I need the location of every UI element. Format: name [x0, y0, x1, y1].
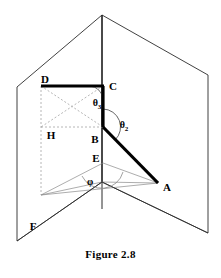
theta2-subscript: 2 — [125, 125, 129, 133]
geometry-diagram — [0, 0, 221, 278]
vertex-label-E: E — [92, 153, 99, 164]
vertex-label-C: C — [109, 81, 117, 92]
angle-label-phi: φ — [87, 177, 93, 187]
angle-label-theta3: θ3 — [93, 98, 102, 111]
vertex-label-D: D — [41, 74, 49, 85]
right-plane — [102, 15, 208, 233]
theta3-subscript: 3 — [98, 103, 102, 111]
segment-E-foot — [41, 163, 103, 195]
phi-symbol: φ — [87, 176, 93, 187]
vertex-label-F: F — [30, 221, 37, 232]
vertex-label-A: A — [163, 182, 171, 193]
angle-label-theta2: θ2 — [120, 120, 129, 133]
vertex-label-B: B — [91, 134, 98, 145]
segment-foot-A — [41, 183, 158, 195]
left-plane — [17, 15, 102, 241]
figure-container: D C H B E A F θ3 θ2 φ Figure 2.8 — [0, 0, 221, 278]
segment-base-right — [102, 182, 208, 233]
segment-BA — [103, 127, 158, 183]
figure-caption: Figure 2.8 — [0, 248, 221, 260]
base-construction-lines — [41, 163, 158, 195]
plane-base-edges — [17, 182, 208, 241]
segment-origin-A — [102, 182, 158, 183]
vertex-label-H: H — [47, 130, 56, 141]
